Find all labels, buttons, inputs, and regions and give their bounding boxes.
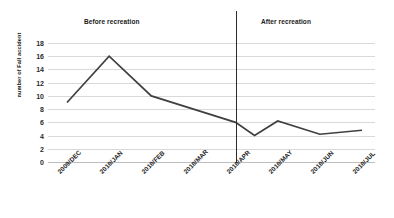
y-tick-label-6: 6 <box>40 119 44 126</box>
y-tick-label-0: 0 <box>40 159 44 166</box>
y-tick-label-2: 2 <box>40 145 44 152</box>
vertical-divider-line <box>236 11 238 163</box>
y-tick-label-10: 10 <box>36 92 44 99</box>
chart-container: Before recreation After recreation numbe… <box>0 0 394 218</box>
y-tick-label-14: 14 <box>36 66 44 73</box>
plot-area: 181614121086420 <box>48 43 375 162</box>
annotation-before-recreation: Before recreation <box>84 18 140 25</box>
y-tick-label-4: 4 <box>40 132 44 139</box>
series-polyline <box>67 56 362 135</box>
y-tick-label-16: 16 <box>36 53 44 60</box>
annotation-after-recreation: After recreation <box>261 18 311 25</box>
y-tick-label-18: 18 <box>36 40 44 47</box>
y-axis-title: number of Fall accident <box>16 20 22 110</box>
y-tick-label-12: 12 <box>36 79 44 86</box>
y-tick-label-8: 8 <box>40 106 44 113</box>
series-line-chart <box>48 43 375 162</box>
